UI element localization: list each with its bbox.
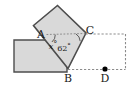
vertex-label-c: C [86,24,94,37]
geometry-canvas: A C B D x° 62° [0,0,135,85]
point-marker-d [102,66,107,71]
angle-62-value: 62 [57,44,67,53]
vertex-label-d: D [101,72,110,85]
angle-62-degree-symbol: ° [67,42,71,50]
geometry-figure: A C B D x° 62° [0,0,135,85]
vertex-label-a: A [36,28,46,41]
vertex-label-b: B [64,72,72,85]
